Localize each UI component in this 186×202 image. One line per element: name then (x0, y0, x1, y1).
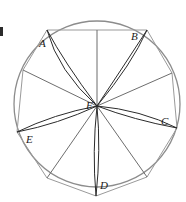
vertex-label-e: E (26, 134, 33, 145)
vertex-label-c: C (161, 116, 168, 127)
thin-ray-p4 (97, 106, 147, 177)
geometry-figure: A B C D E F (0, 0, 186, 202)
figure-canvas (0, 0, 186, 202)
vertex-label-b: B (131, 31, 138, 42)
center-point-f (96, 105, 98, 107)
spindle-ray-f-e (17, 106, 97, 132)
spindle-ray-f-a (47, 30, 97, 106)
chord-b-p2 (147, 30, 172, 73)
vertex-label-a: A (39, 38, 46, 49)
chord-c-p4 (147, 128, 177, 177)
thin-ray-group (23, 30, 172, 178)
center-label-f: F (86, 100, 93, 111)
chord-p1-a (23, 30, 47, 70)
spindle-ray-f-d (94, 106, 99, 196)
cropped-edge-glyph (0, 27, 3, 36)
vertex-label-d: D (100, 180, 108, 191)
